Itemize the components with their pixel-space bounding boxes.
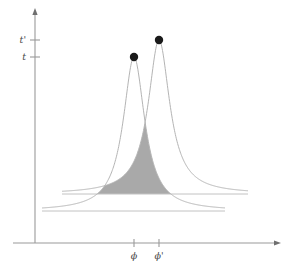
y-tick-t-prime-label: t': [20, 34, 26, 45]
x-tick-phi-label: ϕ: [131, 250, 138, 261]
peak-dot-right: [155, 36, 163, 44]
x-tick-phi-prime-label: ϕ': [154, 250, 163, 261]
y-tick-t-label: t: [22, 51, 26, 62]
plot-canvas: t' t ϕ ϕ': [0, 0, 291, 274]
overlap-region: [97, 123, 171, 194]
x-axis-arrow-icon: [274, 240, 281, 245]
peak-dot-left: [130, 53, 138, 61]
y-axis-arrow-icon: [32, 8, 37, 15]
figure-root: t' t ϕ ϕ': [0, 0, 291, 274]
